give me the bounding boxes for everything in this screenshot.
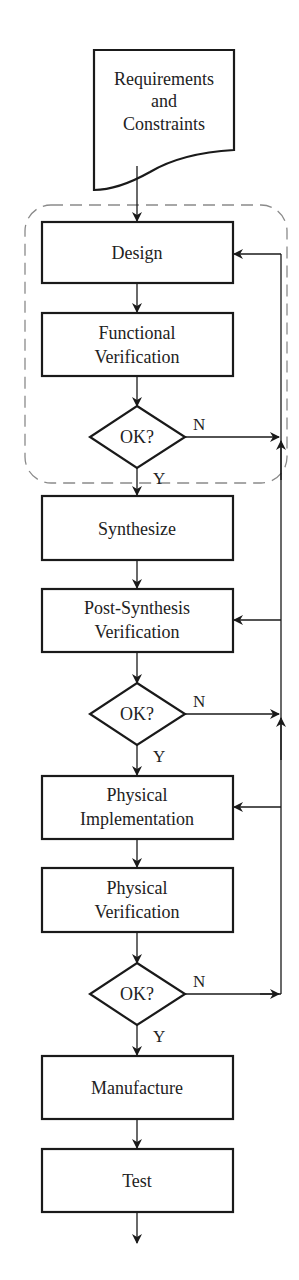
decision-1: OK? N Y xyxy=(90,406,205,488)
step-test: Test xyxy=(42,1149,233,1212)
step-label: Physical xyxy=(107,878,168,898)
step-label: Synthesize xyxy=(98,519,176,539)
step-manufacture: Manufacture xyxy=(42,1056,233,1119)
step-physical-verification: Physical Verification xyxy=(42,868,233,932)
step-physical-implementation: Physical Implementation xyxy=(42,776,233,839)
decision-3: OK? N Y xyxy=(90,963,205,1046)
step-post-synthesis-verification: Post-Synthesis Verification xyxy=(42,589,233,652)
step-label: Implementation xyxy=(80,809,194,829)
decision-label: OK? xyxy=(120,984,154,1004)
step-functional-verification: Functional Verification xyxy=(42,313,233,376)
step-label: Functional xyxy=(99,323,176,343)
requirements-label-1: Requirements xyxy=(114,69,214,89)
decision-label: OK? xyxy=(120,427,154,447)
no-label: N xyxy=(193,972,205,991)
requirements-label-2: and xyxy=(151,91,177,111)
decision-label: OK? xyxy=(120,704,154,724)
step-label: Verification xyxy=(95,622,180,642)
no-label: N xyxy=(193,692,205,711)
step-label: Post-Synthesis xyxy=(84,598,190,618)
step-design: Design xyxy=(42,222,233,283)
step-label: Design xyxy=(112,243,163,263)
step-label: Test xyxy=(122,1171,152,1191)
step-label: Manufacture xyxy=(91,1078,183,1098)
step-label: Verification xyxy=(95,347,180,367)
yes-label: Y xyxy=(153,1027,165,1046)
step-label: Physical xyxy=(107,785,168,805)
yes-label: Y xyxy=(153,747,165,766)
decision-2: OK? N Y xyxy=(90,683,205,766)
step-label: Verification xyxy=(95,902,180,922)
no-label: N xyxy=(193,415,205,434)
step-synthesize: Synthesize xyxy=(42,496,233,560)
requirements-label-3: Constraints xyxy=(123,114,205,134)
flowchart: Requirements and Constraints D xyxy=(0,0,299,1280)
yes-label: Y xyxy=(153,469,165,488)
